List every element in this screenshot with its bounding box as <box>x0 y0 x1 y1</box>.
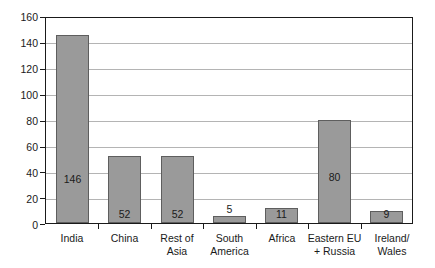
x-axis-label-eastern-eu-russia: Eastern EU + Russia <box>305 232 364 258</box>
x-axis-label-china: China <box>98 232 151 245</box>
x-axis-label-south-america-line1: South <box>203 232 256 245</box>
bar-china[interactable]: 52 <box>108 156 141 223</box>
bar-value-india: 146 <box>64 174 82 185</box>
y-axis-label-40: 40 <box>6 168 38 179</box>
x-axis-label-india: India <box>46 232 98 245</box>
x-axis-tick-1 <box>98 224 99 229</box>
x-axis-label-south-america: South America <box>203 232 256 258</box>
gridline-100 <box>46 95 412 96</box>
x-axis-label-africa-line1: Africa <box>256 232 308 245</box>
gridline-140 <box>46 43 412 44</box>
x-axis-label-india-line1: India <box>46 232 98 245</box>
y-axis-label-80: 80 <box>6 116 38 127</box>
bar-india[interactable]: 146 <box>56 35 89 223</box>
bar-rest-of-asia[interactable]: 52 <box>161 156 194 223</box>
gridline-120 <box>46 69 412 70</box>
bar-eastern-eu-russia[interactable]: 80 <box>318 120 351 223</box>
y-axis-label-20: 20 <box>6 194 38 205</box>
x-axis-label-china-line1: China <box>98 232 151 245</box>
x-axis-label-ireland-wales-line2: Wales <box>364 245 420 258</box>
gridline-60 <box>46 147 412 148</box>
bar-value-ireland-wales: 9 <box>384 209 390 220</box>
bar-south-america[interactable]: 5 <box>213 216 246 223</box>
y-axis: 160 140 120 100 80 60 40 20 0 <box>0 0 38 268</box>
bar-value-china: 52 <box>119 209 131 220</box>
y-axis-label-120: 120 <box>6 64 38 75</box>
x-axis-label-ireland-wales: Ireland/ Wales <box>364 232 420 258</box>
y-axis-tick-0 <box>40 224 45 225</box>
x-axis-label-rest-of-asia-line2: Asia <box>151 245 203 258</box>
gridline-20 <box>46 199 412 200</box>
y-axis-label-140: 140 <box>6 38 38 49</box>
bar-value-africa: 11 <box>276 209 287 220</box>
x-axis-label-rest-of-asia: Rest of Asia <box>151 232 203 258</box>
bar-value-eastern-eu-russia: 80 <box>329 172 341 183</box>
gridline-40 <box>46 173 412 174</box>
x-axis-tick-4 <box>256 224 257 229</box>
y-axis-label-100: 100 <box>6 90 38 101</box>
bar-ireland-wales[interactable]: 9 <box>370 211 403 223</box>
x-axis-label-rest-of-asia-line1: Rest of <box>151 232 203 245</box>
bar-africa[interactable]: 11 <box>265 208 298 223</box>
x-axis-label-africa: Africa <box>256 232 308 245</box>
bar-value-south-america: 5 <box>227 204 233 215</box>
x-axis-tick-6 <box>361 224 362 229</box>
x-axis-tick-5 <box>308 224 309 229</box>
plot-area: 146 52 52 5 11 80 9 <box>45 17 413 224</box>
x-axis-label-south-america-line2: America <box>203 245 256 258</box>
x-axis-label-eastern-eu-russia-line1: Eastern EU <box>305 232 364 245</box>
x-axis-tick-3 <box>203 224 204 229</box>
y-axis-label-160: 160 <box>6 12 38 23</box>
y-axis-label-60: 60 <box>6 142 38 153</box>
gridline-80 <box>46 121 412 122</box>
x-axis-tick-2 <box>151 224 152 229</box>
bar-value-rest-of-asia: 52 <box>172 209 184 220</box>
y-axis-label-0: 0 <box>6 220 38 231</box>
x-axis-label-ireland-wales-line1: Ireland/ <box>364 232 420 245</box>
bar-chart: 160 140 120 100 80 60 40 20 0 146 52 5 <box>0 0 435 268</box>
x-axis-label-eastern-eu-russia-line2: + Russia <box>305 245 364 258</box>
